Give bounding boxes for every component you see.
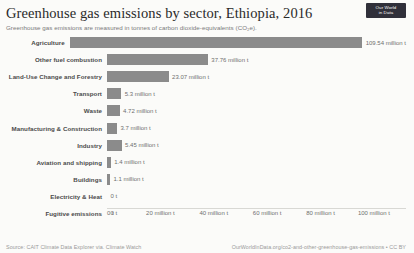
owid-logo-line2: in Data bbox=[379, 11, 394, 16]
bar-category-label: Fugitive emissions bbox=[6, 210, 107, 217]
bar-rows: Agriculture109.54 million tOther fuel co… bbox=[6, 34, 406, 222]
x-axis-tick: 40 million t bbox=[199, 210, 228, 216]
bar[interactable] bbox=[107, 105, 120, 116]
bar-value-label: 1.4 million t bbox=[114, 159, 144, 165]
bar[interactable] bbox=[70, 37, 362, 48]
chart-card: Greenhouse gas emissions by sector, Ethi… bbox=[0, 0, 414, 253]
chart-subtitle: Greenhouse gas emissions are measured in… bbox=[6, 24, 406, 31]
bar-zone: 5.3 million t bbox=[107, 85, 406, 102]
bar-zone: 1.1 million t bbox=[107, 171, 406, 188]
x-axis-tick: 60 million t bbox=[253, 210, 282, 216]
bar-category-label: Buildings bbox=[6, 176, 107, 183]
bar-row[interactable]: Buildings1.1 million t bbox=[6, 171, 406, 188]
owid-logo[interactable]: Our World in Data bbox=[366, 3, 406, 18]
bar[interactable] bbox=[107, 123, 117, 134]
bar-chart-plot: Agriculture109.54 million tOther fuel co… bbox=[6, 34, 406, 220]
bar-value-label: 3.7 million t bbox=[120, 125, 150, 131]
bar[interactable] bbox=[107, 71, 169, 82]
bar-category-label: Other fuel combustion bbox=[6, 56, 107, 63]
page-title: Greenhouse gas emissions by sector, Ethi… bbox=[6, 4, 406, 22]
bar-row[interactable]: Transport5.3 million t bbox=[6, 85, 406, 102]
bar-category-label: Industry bbox=[6, 142, 107, 149]
bar[interactable] bbox=[107, 157, 111, 168]
bar-zone: 37.76 million t bbox=[107, 51, 406, 68]
bar-category-label: Transport bbox=[6, 90, 107, 97]
bar-row[interactable]: Industry5.45 million t bbox=[6, 137, 406, 154]
bar-zone: 1.4 million t bbox=[107, 154, 406, 171]
bar-value-label: 23.07 million t bbox=[172, 74, 209, 80]
bar-value-label: 5.3 million t bbox=[125, 91, 155, 97]
chart-footer: Source: CAIT Climate Data Explorer via. … bbox=[6, 244, 406, 250]
bar-value-label: 5.45 million t bbox=[125, 142, 159, 148]
bar-zone: 3.7 million t bbox=[107, 119, 406, 136]
x-axis-tick: 20 million t bbox=[146, 210, 175, 216]
bar[interactable] bbox=[107, 140, 122, 151]
bar-row[interactable]: Manufacturing & Construction3.7 million … bbox=[6, 119, 406, 136]
bar-row[interactable]: Electricity & Heat0 t bbox=[6, 188, 406, 205]
bar-zone: 23.07 million t bbox=[107, 68, 406, 85]
bar-category-label: Manufacturing & Construction bbox=[6, 125, 107, 132]
bar-row[interactable]: Agriculture109.54 million t bbox=[6, 34, 406, 51]
bar[interactable] bbox=[107, 54, 208, 65]
bar-row[interactable]: Other fuel combustion37.76 million t bbox=[6, 51, 406, 68]
x-axis-tick: 100 million t bbox=[358, 210, 390, 216]
bar-zone: 4.72 million t bbox=[107, 102, 406, 119]
chart-header: Greenhouse gas emissions by sector, Ethi… bbox=[6, 4, 406, 32]
bar-value-label: 37.76 million t bbox=[211, 57, 248, 63]
attribution-link[interactable]: OurWorldInData.org/co2-and-other-greenho… bbox=[232, 244, 406, 250]
x-axis-tick: 0 t bbox=[107, 210, 114, 216]
source-note: Source: CAIT Climate Data Explorer via. … bbox=[6, 244, 141, 250]
bar-category-label: Waste bbox=[6, 107, 107, 114]
bar-category-label: Electricity & Heat bbox=[6, 193, 107, 200]
bar-zone: 109.54 million t bbox=[70, 34, 406, 51]
bar-row[interactable]: Aviation and shipping1.4 million t bbox=[6, 154, 406, 171]
bar-category-label: Agriculture bbox=[6, 39, 70, 46]
bar-value-label: 4.72 million t bbox=[123, 108, 157, 114]
x-axis-line bbox=[107, 208, 406, 209]
bar-zone: 5.45 million t bbox=[107, 137, 406, 154]
bar-row[interactable]: Waste4.72 million t bbox=[6, 102, 406, 119]
bar[interactable] bbox=[107, 88, 121, 99]
x-axis: 0 t20 million t40 million t60 million t8… bbox=[107, 208, 406, 220]
bar-value-label: 1.1 million t bbox=[113, 176, 143, 182]
bar[interactable] bbox=[107, 174, 110, 185]
bar-category-label: Aviation and shipping bbox=[6, 159, 107, 166]
bar-row[interactable]: Land-Use Change and Forestry23.07 millio… bbox=[6, 68, 406, 85]
bar-value-label: 109.54 million t bbox=[366, 40, 406, 46]
bar-zone: 0 t bbox=[107, 188, 406, 205]
x-axis-tick: 80 million t bbox=[306, 210, 335, 216]
bar-value-label: 0 t bbox=[111, 193, 118, 199]
bar-category-label: Land-Use Change and Forestry bbox=[6, 73, 107, 80]
